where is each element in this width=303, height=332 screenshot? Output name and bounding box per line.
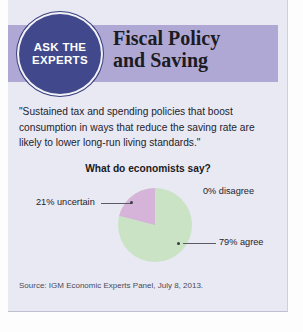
badge-line-1: ASK THE	[34, 41, 87, 54]
infographic-page: ASK THE EXPERTS Fiscal Policy and Saving…	[0, 0, 303, 332]
pie-slice-uncertain	[118, 188, 192, 262]
source-note: Source: IGM Economic Experts Panel, July…	[19, 281, 203, 290]
ask-the-experts-badge: ASK THE EXPERTS	[17, 12, 103, 96]
leader-line-uncertain	[101, 203, 131, 204]
leader-line-agree	[183, 243, 216, 244]
pie-label-disagree: 0% disagree	[203, 186, 254, 196]
pie-label-agree: 79% agree	[219, 237, 263, 247]
badge-line-2: EXPERTS	[32, 54, 88, 67]
pie-slice-agree	[118, 188, 192, 262]
chart-title: What do economists say?	[19, 163, 277, 174]
pie-label-uncertain: 21% uncertain	[36, 197, 95, 207]
pie-chart	[118, 188, 192, 262]
page-title: Fiscal Policy and Saving	[113, 27, 283, 71]
leader-dot-agree	[177, 242, 180, 245]
expert-quote: "Sustained tax and spending policies tha…	[19, 104, 277, 151]
page-title-line-2: and Saving	[113, 49, 283, 71]
page-title-line-1: Fiscal Policy	[113, 27, 283, 49]
leader-dot-uncertain	[130, 201, 133, 204]
